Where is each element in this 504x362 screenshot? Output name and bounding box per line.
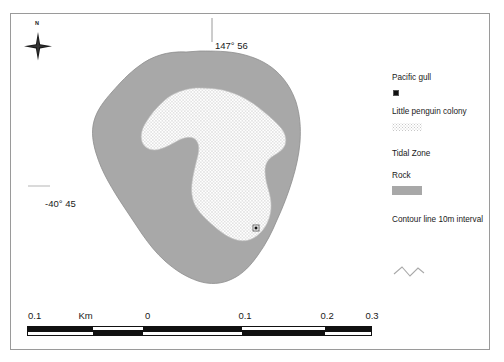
compass-rose-icon <box>24 32 52 61</box>
longitude-label: 147° 56 <box>215 40 248 51</box>
scale-tick-label: 0.1 <box>28 310 41 321</box>
legend-item-contour-line: Contour line 10m interval <box>392 214 497 246</box>
scale-bar-labels: 0.100.10.20.3Km <box>27 310 372 323</box>
scale-unit-label: Km <box>79 310 93 321</box>
legend-item-penguin-colony: Little penguin colony <box>392 106 497 138</box>
legend-symbol-pacific-gull <box>392 84 497 104</box>
scale-tick-label: 0.3 <box>365 310 378 321</box>
point-marker-icon <box>393 90 399 96</box>
scale-segment <box>28 327 93 330</box>
scale-tick-label: 0.2 <box>321 310 334 321</box>
legend-symbol-contour-line <box>392 226 497 246</box>
legend-label-pacific-gull: Pacific gull <box>392 72 497 84</box>
legend-label-rock: Rock <box>392 170 497 182</box>
scale-segment <box>93 332 143 335</box>
legend-item-tidal-zone: Tidal Zone <box>392 148 497 160</box>
legend-label-tidal-zone: Tidal Zone <box>392 148 497 160</box>
legend-spacer <box>392 204 497 214</box>
map-figure: 147° 56 -40° 45 N Pacific gull Little pe… <box>0 0 504 362</box>
pacific-gull-marker <box>253 225 259 231</box>
scale-segment <box>143 327 242 330</box>
legend-symbol-rock <box>392 182 497 202</box>
legend-symbol-penguin-colony <box>392 118 497 138</box>
scale-segment <box>242 332 325 335</box>
legend-spacer <box>392 162 497 170</box>
latitude-label: -40° 45 <box>45 198 76 209</box>
scale-tick-label: 0.1 <box>238 310 251 321</box>
scale-tick-label: 0 <box>145 310 150 321</box>
legend-spacer <box>392 140 497 148</box>
gray-swatch-icon <box>392 186 422 195</box>
scale-bar-row-bottom <box>27 331 372 336</box>
map-legend: Pacific gull Little penguin colony Tidal… <box>392 72 497 248</box>
contour-line-symbol <box>394 267 424 276</box>
legend-item-rock: Rock <box>392 170 497 202</box>
legend-label-penguin-colony: Little penguin colony <box>392 106 497 118</box>
stipple-swatch-icon <box>392 123 422 131</box>
scale-bar: 0.100.10.20.3Km <box>27 310 372 338</box>
legend-item-pacific-gull: Pacific gull <box>392 72 497 104</box>
legend-label-contour-line: Contour line 10m interval <box>392 214 497 226</box>
scale-bar-graphic <box>27 326 372 338</box>
scale-segment <box>325 327 371 330</box>
compass-north-label: N <box>35 20 39 26</box>
